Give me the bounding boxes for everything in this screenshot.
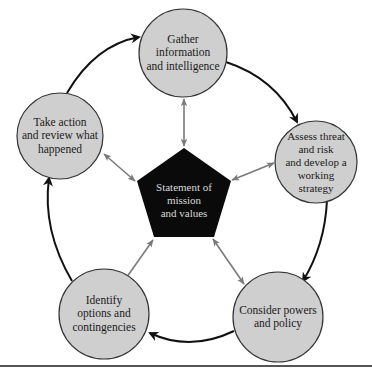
process-cycle-diagram: Gather information and intelligence Asse… <box>0 0 372 371</box>
bottom-rule <box>0 365 372 367</box>
node-assess-label: Assess threat and risk and develop a wor… <box>275 125 357 199</box>
node-act-label: Take action and review what happened <box>16 114 104 158</box>
node-identify-label: Identify options and contingencies <box>60 291 148 337</box>
spoke-identify <box>124 240 153 281</box>
arrow-act-to-gather <box>67 37 139 93</box>
arrow-assess-to-consider <box>303 200 327 281</box>
arrow-consider-to-identify <box>150 331 234 342</box>
arrow-gather-to-assess <box>226 62 297 122</box>
spoke-assess <box>232 163 274 180</box>
center-label: Statement of mission and values <box>140 178 228 222</box>
node-consider-label: Consider powers and policy <box>232 300 324 334</box>
arrow-identify-to-act <box>48 178 72 281</box>
node-gather-label: Gather information and intelligence <box>139 23 227 83</box>
spoke-act <box>104 154 135 181</box>
spoke-consider <box>213 239 244 284</box>
